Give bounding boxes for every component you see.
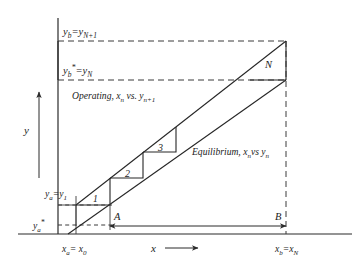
stage-label-2: 2: [125, 168, 130, 179]
label-xa: xa= x0: [61, 243, 87, 257]
svg-text:xb=xN: xb=xN: [274, 243, 299, 257]
stage-label-1: 1: [93, 193, 98, 204]
stage-label-3: 3: [157, 142, 163, 153]
x-axis-label: x: [150, 242, 156, 254]
marker-label-a: A: [113, 211, 121, 222]
y-axis-label: y: [23, 124, 29, 136]
stage-label-n: N: [264, 59, 273, 70]
label-ya-star: ya*: [32, 218, 45, 234]
operating-line: [76, 41, 286, 205]
label-xb: xb=xN: [274, 243, 299, 257]
label-equilibrium-line: Equilibrium, xnvs yn: [191, 146, 270, 160]
svg-text:Operating, xn vs. yn+1: Operating, xn vs. yn+1: [72, 90, 155, 104]
equilibrium-line: [68, 80, 286, 234]
svg-text:ya*: ya*: [32, 218, 45, 234]
marker-label-b: B: [275, 211, 282, 222]
mccabe-thiele-diagram: yb=yN+1 yb*=yN Operating, xn vs. yn+1 Eq…: [0, 0, 359, 264]
svg-text:ya=y1: ya=y1: [44, 188, 67, 202]
svg-text:yb=yN+1: yb=yN+1: [62, 26, 97, 40]
label-yb: yb=yN+1: [62, 26, 97, 40]
label-operating-line: Operating, xn vs. yn+1: [72, 90, 155, 104]
svg-text:xa= x0: xa= x0: [61, 243, 87, 257]
svg-text:yb*=yN: yb*=yN: [62, 63, 93, 79]
figure-canvas: yb=yN+1 yb*=yN Operating, xn vs. yn+1 Eq…: [0, 0, 359, 264]
svg-text:Equilibrium, xnvs yn: Equilibrium, xnvs yn: [191, 146, 270, 160]
label-ya: ya=y1: [44, 188, 67, 202]
label-yb-star: yb*=yN: [62, 63, 93, 79]
